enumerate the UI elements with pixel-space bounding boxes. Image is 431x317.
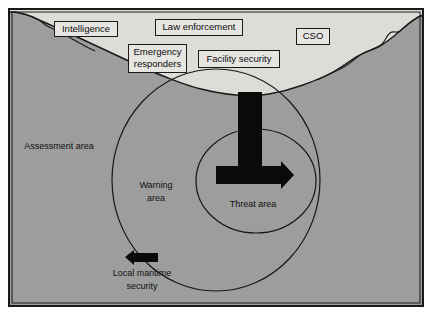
callout-emergency-responders-label-line2: responders [134, 58, 182, 69]
local-maritime-security-label-line1: Local maritime [113, 268, 172, 278]
diagram-canvas: Intelligence Law enforcement CSO Emergen… [0, 0, 431, 317]
threat-area-label: Threat area [230, 199, 277, 209]
local-maritime-security-label-line2: security [126, 281, 158, 291]
callout-law-enforcement-label: Law enforcement [163, 21, 236, 32]
warning-area-label-line2: area [147, 193, 165, 203]
callout-emergency-responders[interactable]: Emergency responders [129, 45, 187, 73]
callout-facility-security[interactable]: Facility security [199, 51, 280, 68]
callout-cso-label: CSO [303, 30, 324, 41]
callout-facility-security-label: Facility security [207, 53, 272, 64]
warning-area-label-line1: Warning [139, 180, 172, 190]
assessment-area-label: Assessment area [24, 141, 94, 151]
maritime-zones-figure: Intelligence Law enforcement CSO Emergen… [0, 0, 431, 317]
callout-emergency-responders-label-line1: Emergency [133, 46, 181, 57]
callout-intelligence[interactable]: Intelligence [55, 22, 118, 37]
callout-law-enforcement[interactable]: Law enforcement [156, 20, 243, 36]
callout-intelligence-label: Intelligence [62, 23, 110, 34]
callout-cso[interactable]: CSO [297, 29, 330, 45]
